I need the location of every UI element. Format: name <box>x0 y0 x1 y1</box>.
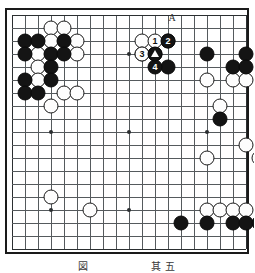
go-diagram-figure: 1234A 図 其 五 <box>0 0 254 273</box>
black-stone[interactable] <box>31 86 46 101</box>
black-stone[interactable] <box>213 112 228 127</box>
white-stone[interactable] <box>44 190 59 205</box>
black-stone[interactable] <box>44 73 59 88</box>
goban-stones[interactable]: 1234A <box>0 0 254 273</box>
triangle-marker-icon <box>151 50 159 57</box>
white-stone[interactable] <box>70 47 85 62</box>
black-stone[interactable] <box>200 216 215 231</box>
point-label-A: A <box>168 12 175 23</box>
black-stone[interactable] <box>161 60 176 75</box>
white-stone[interactable] <box>200 151 215 166</box>
move-number-4: 4 <box>148 60 163 75</box>
white-stone[interactable] <box>239 73 254 88</box>
move-number-2: 2 <box>161 34 176 49</box>
white-stone[interactable] <box>70 86 85 101</box>
black-stone[interactable] <box>239 60 254 75</box>
white-stone[interactable] <box>44 99 59 114</box>
point-label-leader-line <box>168 24 169 28</box>
black-stone[interactable] <box>200 47 215 62</box>
black-stone[interactable] <box>252 216 255 231</box>
black-stone[interactable] <box>31 34 46 49</box>
white-stone[interactable] <box>83 203 98 218</box>
figure-caption: 図 其 五 <box>0 258 254 273</box>
white-stone[interactable] <box>200 73 215 88</box>
black-stone[interactable] <box>174 216 189 231</box>
black-stone[interactable] <box>18 47 33 62</box>
white-stone[interactable] <box>252 151 255 166</box>
white-stone[interactable] <box>239 138 254 153</box>
black-stone[interactable] <box>57 47 72 62</box>
